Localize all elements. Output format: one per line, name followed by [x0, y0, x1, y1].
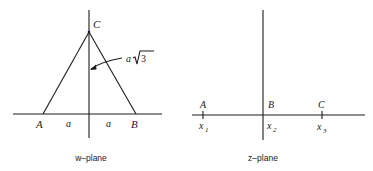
conformal-map-figure: C A B a a a 3 w–plane A B C x 1 x — [0, 0, 373, 171]
vertex-c-dot — [88, 31, 91, 34]
arrowhead-icon — [90, 65, 97, 71]
segment-left-label: a — [66, 118, 71, 129]
vertex-a-label: A — [35, 118, 43, 130]
height-label: a 3 — [126, 51, 154, 64]
w-plane-panel: C A B a a a 3 w–plane — [13, 10, 162, 163]
coord-x1-var: x — [198, 120, 204, 131]
coord-x1-sub: 1 — [205, 126, 209, 134]
coord-x3-sub: 3 — [322, 127, 327, 135]
coord-x2: x 2 — [266, 120, 277, 134]
z-plane-panel: A B C x 1 x 2 x 3 z–plane — [192, 10, 365, 163]
coord-x1: x 1 — [198, 120, 209, 134]
point-b-label: B — [268, 99, 274, 110]
triangle-side-ac — [43, 32, 89, 114]
coord-x3-var: x — [316, 121, 322, 132]
coord-x2-var: x — [266, 120, 272, 131]
height-coef: a — [126, 53, 131, 64]
z-plane-caption: z–plane — [248, 153, 278, 163]
triangle-side-bc — [89, 32, 136, 114]
segment-right-label: a — [106, 118, 111, 129]
w-plane-caption: w–plane — [74, 153, 107, 163]
coord-x3: x 3 — [316, 121, 327, 135]
vertex-b-label: B — [131, 118, 138, 130]
coord-x2-sub: 2 — [273, 126, 277, 134]
height-radicand: 3 — [141, 53, 146, 64]
point-c-label: C — [318, 99, 325, 110]
point-a-label: A — [199, 99, 207, 110]
vertex-c-label: C — [93, 18, 101, 30]
